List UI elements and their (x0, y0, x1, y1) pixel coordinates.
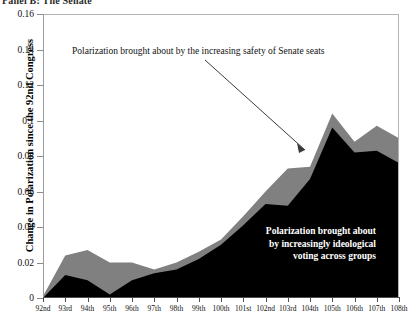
annotation-line-1: Polarization brought about (196, 225, 376, 238)
x-tick-label-102nd: 102nd (256, 304, 275, 313)
x-tick-label-100th: 100th (212, 304, 229, 313)
x-tick-label-103rd: 103rd (279, 304, 297, 313)
y-tick-label: 0.12 (17, 80, 34, 90)
y-tick-label: 0 (29, 293, 34, 303)
x-tick-label-108th: 108th (390, 304, 407, 313)
x-tick-label-101st: 101st (235, 304, 251, 313)
y-tick-label: 0.04 (17, 222, 34, 232)
annotation-ideological-voting: Polarization brought about by increasing… (196, 225, 376, 263)
x-tick-label-95th: 95th (103, 304, 116, 313)
x-tick-label-97th: 97th (148, 304, 161, 313)
x-tick-label-104th: 104th (301, 304, 318, 313)
annotation-line-2: by increasingly ideological (196, 238, 376, 251)
annotation-safety-of-seats: Polarization brought about by the increa… (72, 46, 324, 56)
x-tick-label-106th: 106th (346, 304, 363, 313)
y-tick-label: 0.06 (17, 187, 34, 197)
x-tick-label-93rd: 93rd (58, 304, 72, 313)
x-tick (399, 297, 400, 302)
x-tick-label-98th: 98th (170, 304, 183, 313)
annotation-line-3: voting across groups (196, 250, 376, 263)
y-tick-label: 0.1 (22, 116, 34, 126)
x-tick-label-105th: 105th (324, 304, 341, 313)
x-tick-label-92nd: 92nd (36, 304, 51, 313)
panel-title: Panel B: The Senate (2, 0, 92, 6)
x-tick-label-96th: 96th (125, 304, 138, 313)
x-tick-label-94th: 94th (81, 304, 94, 313)
x-tick-label-99th: 99th (192, 304, 205, 313)
y-tick-label: 0.02 (17, 258, 34, 268)
x-tick-label-107th: 107th (368, 304, 385, 313)
chart-figure: Panel B: The Senate Change in Polarizati… (0, 0, 409, 322)
y-tick-label: 0.08 (17, 151, 34, 161)
y-tick-label: 0.16 (17, 9, 34, 19)
y-tick-label: 0.14 (17, 45, 34, 55)
